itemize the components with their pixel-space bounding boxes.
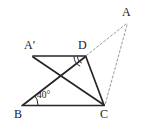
segment-A-to-C	[105, 25, 127, 105]
vertex-label-D: D	[78, 39, 87, 51]
geometry-figure: A A′ D B C 40°	[0, 0, 146, 134]
angle-label-B: 40°	[37, 91, 50, 101]
vertex-label-A-prime: A′	[24, 39, 35, 51]
segment-B-to-D	[23, 57, 85, 105]
segment-D-to-C	[86, 57, 104, 105]
vertex-label-B: B	[14, 108, 22, 120]
vertex-label-A: A	[122, 6, 131, 18]
vertex-label-C: C	[100, 108, 108, 120]
